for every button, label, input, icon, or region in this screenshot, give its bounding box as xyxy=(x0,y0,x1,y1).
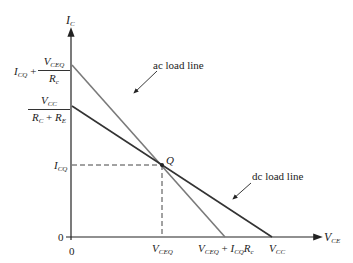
x-axis-label: VCE xyxy=(324,231,340,245)
load-line-plot xyxy=(0,0,353,263)
y-axis-label: IC xyxy=(66,14,75,28)
dc-load-line-annotation: dc load line xyxy=(252,171,303,182)
icq-label: ICQ xyxy=(54,160,67,173)
ac-annotation-arrow xyxy=(134,71,157,93)
ac-load-line xyxy=(72,65,225,237)
vceq-label: VCEQ xyxy=(152,243,173,256)
origin-y-zero: 0 xyxy=(58,232,64,243)
ac-y-intercept-prefix: ICQ + xyxy=(14,66,36,79)
ac-x-intercept-label: VCEQ + ICQRc xyxy=(198,243,254,256)
ac-y-intercept-fraction: VCEQ Rc xyxy=(38,56,70,86)
dc-load-line xyxy=(72,106,272,237)
ac-load-line-annotation: ac load line xyxy=(153,60,204,71)
vcc-label: VCC xyxy=(269,243,285,256)
dc-y-intercept-fraction: VCC RC + RE xyxy=(28,95,70,125)
origin-x-zero: 0 xyxy=(69,246,75,257)
q-point xyxy=(160,163,164,167)
dc-annotation-arrow xyxy=(233,183,251,199)
q-point-label: Q xyxy=(166,155,174,166)
